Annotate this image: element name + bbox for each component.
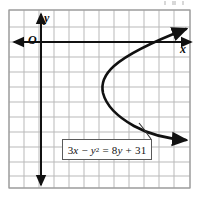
graph-figure: y x O 3x − y2 = 8y + 31 bbox=[0, 0, 201, 197]
label-leader-line bbox=[139, 123, 151, 139]
origin-label: O bbox=[28, 33, 37, 48]
equation-rhs-variable: y bbox=[118, 144, 123, 156]
x-axis-label: x bbox=[180, 42, 186, 57]
equation-constant: 31 bbox=[135, 144, 146, 156]
equation-label: 3x − y2 = 8y + 31 bbox=[62, 139, 152, 160]
equation-equals: = bbox=[102, 144, 108, 156]
equation-minus: − bbox=[81, 144, 87, 156]
equation-lhs-variable: x bbox=[73, 144, 78, 156]
equation-plus: + bbox=[126, 144, 132, 156]
graph-canvas bbox=[0, 0, 201, 197]
y-axis-label: y bbox=[44, 11, 49, 26]
